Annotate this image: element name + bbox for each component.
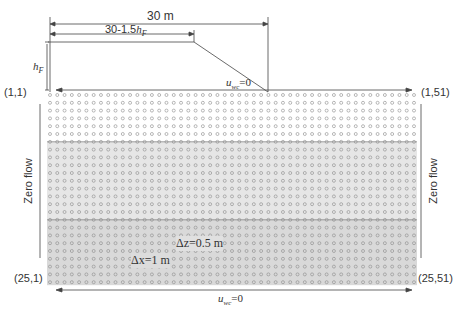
bottom-boundary-label: uwc=0 (218, 292, 243, 307)
arrow-head (50, 32, 55, 36)
height-sub: F (39, 66, 44, 75)
corner-label-tl: (1,1) (4, 86, 27, 98)
arrow-head (263, 22, 268, 26)
right-zero-flow-label: Zero flow (427, 158, 439, 203)
left-zero-flow-label: Zero flow (22, 158, 34, 203)
arrow-head (56, 288, 62, 292)
corner-label-tr: (1,51) (421, 86, 450, 98)
width-top-sub: F (142, 29, 147, 38)
arrow-head (189, 32, 194, 36)
label-width-total: 30 m (147, 9, 174, 23)
dz-label: Δz=0.5 m (176, 236, 223, 251)
arrow-head (56, 88, 62, 92)
corner-label-bl: (25,1) (14, 272, 43, 284)
top-bc-val: =0 (239, 76, 251, 88)
bottom-bc-val: =0 (231, 292, 243, 304)
label-width-top: 30-1.5hF (105, 23, 147, 38)
corner-label-br: (25,51) (418, 272, 453, 284)
top-boundary-label: uwc=0 (226, 76, 251, 91)
arrow-head (406, 88, 412, 92)
width-top-text: 30-1.5 (105, 23, 136, 35)
arrow-head (406, 288, 412, 292)
mesh-diagram (0, 0, 473, 317)
label-height: hF (33, 60, 43, 75)
dx-label: Δx=1 m (131, 253, 170, 268)
arrow-head (50, 22, 55, 26)
